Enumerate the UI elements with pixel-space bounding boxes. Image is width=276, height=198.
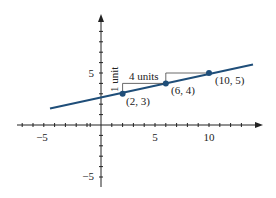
point-label-6-4: (6, 4)	[171, 84, 195, 97]
x-tick-label-5: 5	[152, 131, 158, 143]
point-2-3	[120, 91, 126, 97]
coordinate-plane: −5 5 10 5 −5 4 units 1 unit (2, 3) (6, 4…	[0, 0, 276, 198]
point-label-2-3: (2, 3)	[126, 95, 150, 108]
x-tick-label-neg5: −5	[36, 131, 48, 143]
y-tick-label-5: 5	[89, 67, 95, 79]
point-10-5	[206, 70, 212, 76]
run-label: 4 units	[129, 70, 159, 82]
y-tick-label-neg5: −5	[82, 170, 94, 182]
x-tick-label-10: 10	[204, 131, 216, 143]
point-label-10-5: (10, 5)	[215, 74, 245, 87]
point-6-4	[163, 80, 169, 86]
y-axis-arrow-icon	[98, 14, 104, 22]
x-axis-arrow-icon	[255, 122, 263, 128]
rise-label: 1 unit	[108, 67, 120, 92]
